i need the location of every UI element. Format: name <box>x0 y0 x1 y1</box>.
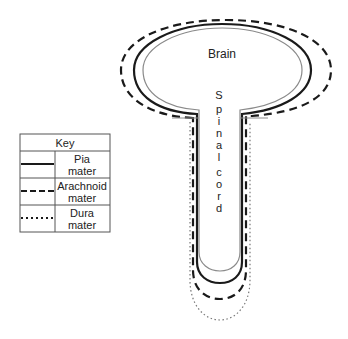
key-title: Key <box>56 137 75 149</box>
svg-text:Arachnoid: Arachnoid <box>57 180 107 192</box>
svg-text:c: c <box>216 166 222 178</box>
svg-text:Dura: Dura <box>70 207 95 219</box>
meninges-diagram: Brain S p i n a l c o r d Key Pia mater … <box>0 0 348 339</box>
svg-text:a: a <box>216 139 223 151</box>
brain-label: Brain <box>208 47 236 61</box>
cord-label: c o r d <box>216 166 222 214</box>
spinal-label: S p i n a l <box>215 89 223 163</box>
svg-text:l: l <box>218 151 220 163</box>
svg-text:p: p <box>216 103 222 115</box>
svg-text:S: S <box>215 89 222 101</box>
svg-text:mater: mater <box>68 219 96 231</box>
svg-text:Pia: Pia <box>74 153 91 165</box>
svg-text:r: r <box>217 190 221 202</box>
svg-text:i: i <box>218 115 220 127</box>
svg-text:o: o <box>216 178 222 190</box>
arachnoid-mater-outline <box>121 20 331 299</box>
inner-surface-outline <box>143 28 302 271</box>
svg-text:mater: mater <box>68 192 96 204</box>
pia-mater-outline <box>134 24 311 283</box>
svg-text:n: n <box>216 127 222 139</box>
svg-text:mater: mater <box>68 165 96 177</box>
svg-text:d: d <box>216 202 222 214</box>
key-table: Key Pia mater Arachnoid mater Dura mater <box>20 134 110 232</box>
